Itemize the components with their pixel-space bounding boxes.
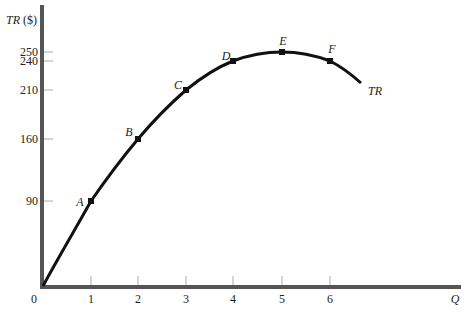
y-tick-label: 240 (20, 54, 38, 68)
x-axis-label: Q (451, 292, 460, 306)
point-label-d: D (221, 49, 231, 63)
point-label-e: E (278, 34, 287, 48)
point-label-c: C (174, 78, 183, 92)
point-e (279, 49, 285, 55)
x-tick-label: 0 (31, 292, 37, 306)
x-tick-label: 2 (135, 292, 141, 306)
x-tick-label: 4 (230, 292, 236, 306)
point-c (183, 87, 189, 93)
x-axis (40, 285, 461, 289)
curve-label-tr: TR (368, 84, 383, 98)
point-a (88, 198, 94, 204)
x-ticks (91, 276, 330, 285)
point-label-a: A (75, 195, 84, 209)
point-d (230, 58, 236, 64)
x-tick-label: 5 (279, 292, 285, 306)
point-b (135, 136, 141, 142)
y-tick-label: 160 (20, 132, 38, 146)
y-ticks (44, 52, 53, 201)
point-f (327, 58, 333, 64)
tr-chart: TR ($) 250 240 210 160 90 0 1 2 3 4 5 6 … (0, 0, 473, 318)
point-label-f: F (327, 42, 336, 56)
point-label-b: B (125, 125, 133, 139)
x-tick-label: 1 (88, 292, 94, 306)
y-axis-label: TR ($) (6, 13, 37, 27)
y-tick-label: 90 (26, 194, 38, 208)
tr-curve (43, 52, 361, 286)
x-tick-label: 3 (183, 292, 189, 306)
y-tick-label: 210 (20, 83, 38, 97)
y-axis (40, 5, 44, 289)
x-tick-label: 6 (327, 292, 333, 306)
